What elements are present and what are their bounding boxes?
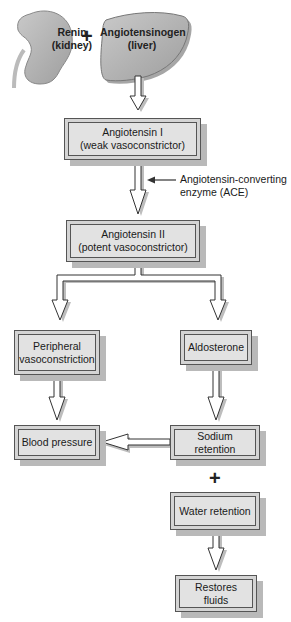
- node-label: Angiotensin II: [78, 228, 188, 241]
- node-angiotensin-1: Angiotensin I (weak vasoconstrictor): [64, 118, 201, 160]
- node-label: Sodium retention: [177, 430, 253, 456]
- node-blood-pressure: Blood pressure: [14, 425, 100, 460]
- node-sublabel: vasoconstriction: [19, 353, 94, 366]
- node-label: Water retention: [179, 505, 250, 518]
- arrow-down-icon: [208, 532, 227, 572]
- angiotensinogen-label: Angiotensinogen (liver): [100, 26, 184, 52]
- node-label: Restores fluids: [182, 581, 250, 607]
- node-sodium-retention: Sodium retention: [170, 425, 260, 460]
- arrow-left-icon: [102, 434, 172, 453]
- node-peripheral-vasoconstriction: Peripheral vasoconstriction: [14, 330, 100, 375]
- arrow-down-icon: [49, 377, 68, 422]
- node-label: Aldosterone: [188, 341, 244, 354]
- arrow-down-icon: [130, 162, 149, 216]
- enzyme-pointer-arrow-icon: [147, 177, 176, 184]
- node-sublabel: (weak vasoconstrictor): [80, 139, 185, 152]
- node-label: Angiotensin I: [80, 126, 185, 139]
- arrow-down-icon: [208, 367, 227, 422]
- enzyme-label-line1: Angiotensin-converting: [180, 173, 290, 186]
- node-aldosterone: Aldosterone: [180, 330, 252, 365]
- node-sublabel: (potent vasoconstrictor): [78, 241, 188, 254]
- node-label: Peripheral: [19, 340, 94, 353]
- plus-operator: +: [81, 26, 93, 46]
- node-angiotensin-2: Angiotensin II (potent vasoconstrictor): [66, 220, 200, 262]
- node-water-retention: Water retention: [170, 492, 260, 530]
- node-label: Blood pressure: [22, 436, 93, 449]
- node-restores-fluids: Restores fluids: [175, 575, 257, 612]
- angiotensinogen-name: Angiotensinogen: [100, 26, 184, 39]
- angiotensinogen-source: (liver): [100, 39, 184, 52]
- plus-operator: +: [209, 468, 221, 488]
- branch-arrows: [52, 264, 229, 322]
- enzyme-label-line2: enzyme (ACE): [180, 186, 290, 199]
- enzyme-label: Angiotensin-converting enzyme (ACE): [180, 173, 290, 199]
